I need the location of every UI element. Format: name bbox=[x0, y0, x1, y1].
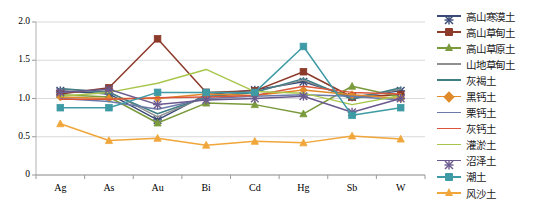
legend-marker-triangle-icon bbox=[445, 43, 453, 51]
legend-item-label: 灌淤土 bbox=[466, 137, 495, 152]
legend-key-icon bbox=[436, 186, 462, 200]
data-point-marker bbox=[57, 120, 64, 127]
legend-item[interactable]: 灰钙土 bbox=[436, 121, 538, 137]
legend-item-label: 栗钙土 bbox=[466, 105, 495, 120]
legend-cross-glyph bbox=[444, 15, 454, 25]
legend-item[interactable]: 高山草原土 bbox=[436, 40, 538, 56]
legend-item-label: 山地草甸土 bbox=[466, 57, 515, 72]
legend-item-label: 沼泽土 bbox=[466, 153, 495, 168]
x-axis-tick-label: As bbox=[89, 182, 129, 193]
data-point-marker bbox=[57, 104, 64, 111]
chart-container: 00.51.01.52.0AgAsAuBiCdHgSbW 高山寒漠土高山草甸土高… bbox=[0, 0, 538, 219]
data-point-marker bbox=[300, 43, 307, 50]
plot-area: 00.51.01.52.0AgAsAuBiCdHgSbW bbox=[0, 0, 432, 219]
data-point-marker bbox=[105, 85, 114, 94]
data-point-marker bbox=[106, 104, 113, 111]
legend-item-label: 高山草甸土 bbox=[466, 25, 515, 40]
data-point-marker bbox=[153, 100, 162, 109]
legend-key-icon bbox=[436, 57, 462, 71]
legend-item-label: 风沙土 bbox=[466, 186, 495, 201]
legend-item[interactable]: 灰褐土 bbox=[436, 72, 538, 88]
x-axis-tick-label: Cd bbox=[235, 182, 275, 193]
legend-key-icon bbox=[436, 9, 462, 23]
legend-marker-cross-icon bbox=[444, 11, 454, 21]
legend-line-swatch bbox=[437, 79, 461, 81]
legend-line-swatch bbox=[437, 128, 461, 130]
data-point-marker bbox=[252, 89, 259, 96]
legend-line-swatch bbox=[437, 112, 461, 114]
legend-item[interactable]: 潮土 bbox=[436, 169, 538, 185]
legend-key-icon bbox=[436, 138, 462, 152]
x-axis-tick-label: W bbox=[381, 182, 421, 193]
legend-key-icon bbox=[436, 90, 462, 104]
legend-item-label: 灰钙土 bbox=[466, 121, 495, 136]
data-point-marker bbox=[203, 89, 210, 96]
x-axis-tick-label: Sb bbox=[332, 182, 372, 193]
legend-key-icon bbox=[436, 106, 462, 120]
data-point-marker bbox=[299, 92, 308, 101]
legend-item[interactable]: 栗钙土 bbox=[436, 105, 538, 121]
legend-item[interactable]: 高山草甸土 bbox=[436, 24, 538, 40]
legend-item-label: 高山寒漠土 bbox=[466, 9, 515, 24]
legend-item[interactable]: 风沙土 bbox=[436, 185, 538, 201]
x-axis-tick-label: Au bbox=[138, 182, 178, 193]
y-axis-tick-label: 0 bbox=[4, 169, 30, 179]
data-point-marker bbox=[348, 82, 355, 89]
data-point-marker bbox=[349, 112, 356, 119]
legend-item-label: 灰褐土 bbox=[466, 73, 495, 88]
legend-item-label: 高山草原土 bbox=[466, 41, 515, 56]
legend-cross-glyph bbox=[444, 160, 454, 170]
x-axis-tick-label: Ag bbox=[40, 182, 80, 193]
legend-key-icon bbox=[436, 154, 462, 168]
legend-marker-triangle-icon bbox=[445, 188, 453, 196]
legend-item-label: 黑钙土 bbox=[466, 89, 495, 104]
legend-item-label: 潮土 bbox=[466, 169, 486, 184]
legend-key-icon bbox=[436, 25, 462, 39]
y-axis-tick-label: 2.0 bbox=[4, 16, 30, 26]
legend-line-swatch bbox=[437, 63, 461, 65]
data-point-marker bbox=[154, 36, 161, 43]
legend-item[interactable]: 灌淤土 bbox=[436, 137, 538, 153]
data-point-marker bbox=[300, 68, 307, 75]
legend-item[interactable]: 高山寒漠土 bbox=[436, 8, 538, 24]
legend-marker-cross-icon bbox=[444, 156, 454, 166]
legend-line-swatch bbox=[437, 144, 461, 146]
x-axis-tick-label: Bi bbox=[186, 182, 226, 193]
data-point-marker bbox=[397, 104, 404, 111]
legend-item[interactable]: 黑钙土 bbox=[436, 88, 538, 104]
data-point-marker bbox=[396, 94, 405, 103]
legend-marker-square-icon bbox=[445, 28, 453, 36]
data-point-marker bbox=[56, 88, 65, 97]
data-point-marker bbox=[202, 96, 211, 105]
legend-item[interactable]: 山地草甸土 bbox=[436, 56, 538, 72]
y-axis-tick-label: 0.5 bbox=[4, 131, 30, 141]
x-axis-tick-label: Hg bbox=[283, 182, 323, 193]
legend-key-icon bbox=[436, 122, 462, 136]
legend-item[interactable]: 沼泽土 bbox=[436, 153, 538, 169]
legend-marker-square-icon bbox=[445, 173, 453, 181]
chart-legend: 高山寒漠土高山草甸土高山草原土山地草甸土灰褐土黑钙土栗钙土灰钙土灌淤土沼泽土潮土… bbox=[436, 8, 538, 213]
legend-key-icon bbox=[436, 73, 462, 87]
data-point-marker bbox=[154, 89, 161, 96]
legend-key-icon bbox=[436, 41, 462, 55]
y-axis-tick-label: 1.0 bbox=[4, 93, 30, 103]
legend-key-icon bbox=[436, 170, 462, 184]
legend-marker-diamond-icon bbox=[443, 91, 454, 102]
series-11 bbox=[57, 120, 405, 148]
y-axis-tick-label: 1.5 bbox=[4, 54, 30, 64]
